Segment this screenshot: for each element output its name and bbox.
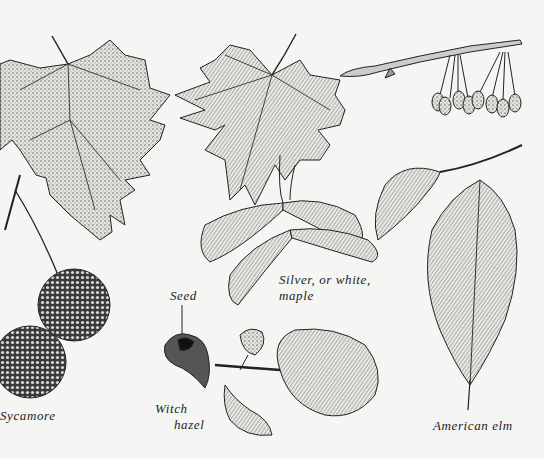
label-sycamore: Sycamore: [0, 408, 56, 423]
botanical-drawing: [0, 0, 544, 459]
witch-hazel-branch: [215, 329, 378, 435]
elm-twig-fruits: [340, 40, 522, 117]
label-silver-maple-line2: maple: [279, 288, 314, 303]
label-american-elm: American elm: [433, 418, 513, 433]
label-witch-hazel-line1: Witch: [155, 401, 188, 416]
witch-hazel-capsule: [164, 305, 209, 388]
sycamore-seed-balls: [0, 269, 110, 398]
silver-maple-leaf: [175, 34, 345, 205]
label-witch-hazel-line2: hazel: [174, 417, 204, 432]
label-seed: Seed: [170, 288, 197, 303]
elm-leaves: [375, 145, 522, 410]
botanical-plate: Sycamore Silver, or white, maple Seed Wi…: [0, 0, 544, 459]
sycamore-leaf: [0, 36, 170, 280]
label-silver-maple-line1: Silver, or white,: [279, 272, 371, 287]
